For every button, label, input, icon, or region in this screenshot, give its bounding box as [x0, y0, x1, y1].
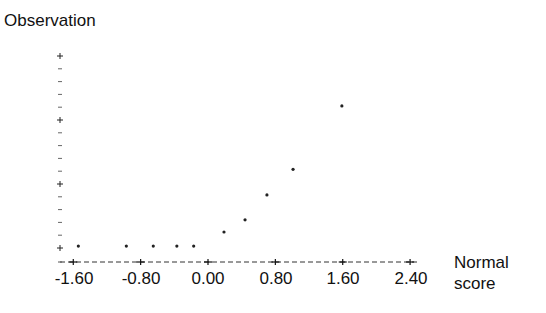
data-points	[77, 104, 344, 247]
data-point	[340, 104, 343, 107]
data-point	[152, 244, 155, 247]
scatter-plot	[0, 0, 546, 313]
data-point	[243, 218, 246, 221]
data-point	[175, 244, 178, 247]
data-point	[222, 230, 225, 233]
data-point	[265, 193, 268, 196]
data-point	[192, 244, 195, 247]
data-point	[125, 244, 128, 247]
data-point	[291, 168, 294, 171]
data-point	[77, 244, 80, 247]
axes	[57, 53, 418, 265]
